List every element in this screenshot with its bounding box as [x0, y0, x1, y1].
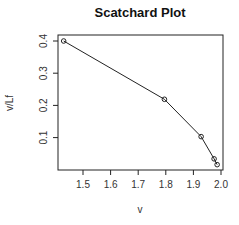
chart-title: Scatchard Plot: [94, 5, 186, 20]
x-tick-label: 1.7: [131, 179, 145, 190]
y-axis-label: v/Lf: [4, 95, 15, 111]
x-axis: 1.51.61.71.81.92.0: [76, 170, 228, 190]
x-tick-label: 1.8: [159, 179, 173, 190]
y-tick-label: 0.1: [38, 130, 49, 144]
y-tick-label: 0.4: [38, 34, 49, 48]
x-tick-label: 1.5: [76, 179, 90, 190]
y-tick-label: 0.2: [38, 98, 49, 112]
x-tick-label: 1.6: [104, 179, 118, 190]
scatchard-chart: Scatchard Plot 1.51.61.71.81.92.0 0.10.2…: [0, 0, 239, 225]
data-series: [61, 39, 219, 167]
x-tick-label: 1.9: [186, 179, 200, 190]
y-axis: 0.10.20.30.4: [38, 34, 58, 145]
plot-frame: [58, 35, 223, 170]
series-line: [64, 41, 217, 165]
y-tick-label: 0.3: [38, 66, 49, 80]
x-tick-label: 2.0: [214, 179, 228, 190]
x-axis-label: v: [138, 204, 143, 215]
